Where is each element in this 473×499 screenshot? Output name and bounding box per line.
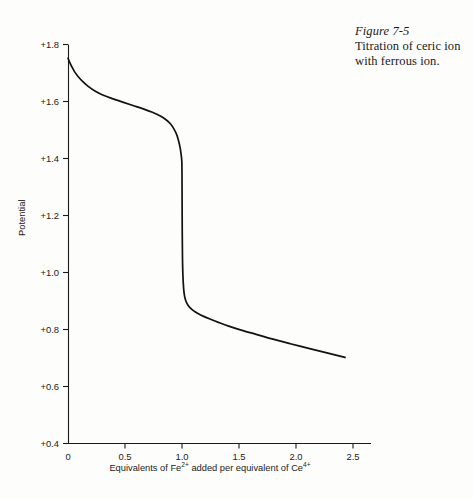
- y-axis-tick-label: +0.8: [40, 324, 59, 335]
- x-axis-tick-label: 0: [48, 451, 88, 462]
- figure-page: Figure 7-5 Titration of ceric ion with f…: [0, 0, 473, 499]
- y-axis-tick-label: +1.8: [40, 39, 59, 50]
- y-axis-ticks: [63, 45, 68, 444]
- x-axis-title-pre: Equivalents of Fe: [109, 463, 181, 473]
- chart-canvas: [0, 0, 473, 499]
- x-axis-tick-label: 0.5: [105, 451, 145, 462]
- y-axis-title: Potential: [16, 156, 27, 236]
- y-axis-tick-label: +1.4: [40, 153, 59, 164]
- x-axis-title: Equivalents of Fe2+ added per equivalent…: [0, 463, 420, 473]
- titration-curve-chart: +0.4+0.6+0.8+1.0+1.2+1.4+1.6+1.8 00.51.0…: [0, 0, 473, 499]
- x-axis-tick-label: 1.0: [162, 451, 202, 462]
- x-axis-title-sup-fe: 2+: [181, 461, 189, 468]
- y-axis-tick-label: +0.4: [40, 438, 59, 449]
- x-axis-ticks: [125, 444, 353, 449]
- y-axis-tick-label: +0.6: [40, 381, 59, 392]
- x-axis-tick-label: 2.0: [276, 451, 316, 462]
- y-axis-tick-label: +1.0: [40, 267, 59, 278]
- x-axis-title-mid: added per equivalent of Ce: [189, 463, 303, 473]
- y-axis-tick-label: +1.6: [40, 96, 59, 107]
- x-axis-tick-label: 2.5: [333, 451, 373, 462]
- x-axis-tick-label: 1.5: [219, 451, 259, 462]
- x-axis-title-sup-ce: 4+: [303, 461, 311, 468]
- titration-curve-line: [68, 58, 345, 357]
- y-axis-tick-label: +1.2: [40, 210, 59, 221]
